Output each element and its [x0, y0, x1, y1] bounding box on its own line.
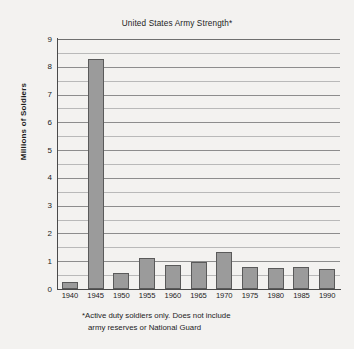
- x-axis-tick-labels: 1940194519501955196019651970197519801985…: [57, 291, 340, 303]
- y-tick-label: 6: [30, 118, 52, 127]
- plot-area: [57, 39, 340, 289]
- bar: [88, 59, 104, 289]
- y-tick-label: 0: [30, 285, 52, 294]
- y-tick-label: 3: [30, 201, 52, 210]
- chart-figure: United States Army Strength* Millions of…: [0, 0, 354, 349]
- y-tick-label: 7: [30, 90, 52, 99]
- chart-title: United States Army Strength*: [0, 19, 354, 28]
- bar: [293, 267, 309, 289]
- bar: [191, 262, 207, 289]
- y-tick-label: 8: [30, 62, 52, 71]
- x-axis-line: [57, 289, 341, 290]
- bar: [113, 273, 129, 289]
- y-axis-title: Millions of Soldiers: [19, 52, 28, 192]
- y-tick-label: 4: [30, 173, 52, 182]
- y-tick-label: 9: [30, 35, 52, 44]
- gridline: [57, 53, 340, 54]
- chart-footnote: *Active duty soldiers only. Does not inc…: [82, 310, 332, 333]
- y-tick-label: 2: [30, 229, 52, 238]
- y-tick-label: 5: [30, 146, 52, 155]
- bar: [139, 258, 155, 289]
- footnote-line-1: *Active duty soldiers only. Does not inc…: [82, 310, 332, 322]
- footnote-line-2: army reserves or National Guard: [82, 322, 332, 334]
- bar: [319, 269, 335, 289]
- y-axis-line: [57, 38, 58, 290]
- bar: [216, 252, 232, 289]
- y-tick-label: 1: [30, 257, 52, 266]
- gridline: [57, 39, 340, 40]
- bar: [62, 282, 78, 290]
- x-tick-label: 1990: [312, 291, 342, 300]
- bar: [268, 268, 284, 289]
- bar: [242, 267, 258, 289]
- bar: [165, 265, 181, 289]
